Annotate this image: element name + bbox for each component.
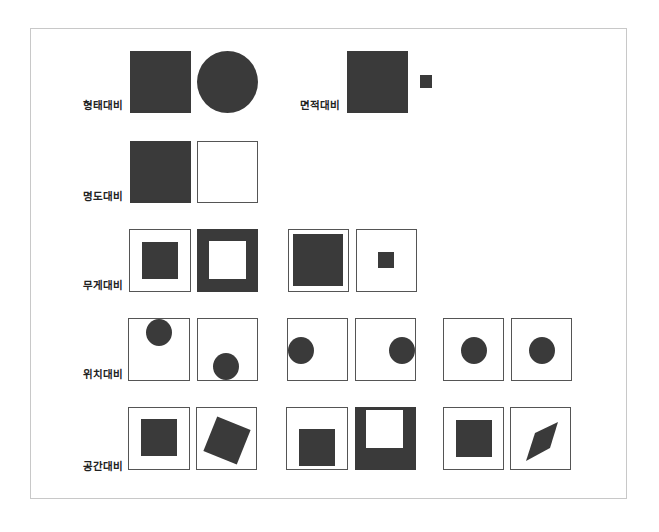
- position-box-5: [443, 318, 504, 381]
- weight-box-2: [197, 229, 258, 292]
- label-shape-contrast: 형태대비: [83, 99, 123, 111]
- label-area-contrast: 면적대비: [300, 99, 340, 111]
- circle-right: [389, 337, 415, 364]
- filled-square-shape: [130, 51, 191, 113]
- inner-dark-square: [142, 242, 178, 279]
- rotated-square: [203, 417, 250, 465]
- space-box-3: [286, 407, 348, 470]
- space-box-6: [510, 407, 571, 470]
- weight-box-4: [356, 229, 417, 292]
- circle-center: [461, 337, 487, 364]
- inner-large-dark-square: [293, 234, 343, 286]
- circle-top: [146, 319, 172, 346]
- position-box-6: [511, 318, 572, 381]
- inner-white-square: [209, 241, 246, 279]
- circle-center: [529, 337, 555, 364]
- position-box-1: [128, 318, 190, 381]
- dark-square-shape: [130, 141, 191, 203]
- inner-tiny-dark-square: [378, 252, 394, 268]
- lower-square: [299, 429, 335, 466]
- upper-white-square: [366, 410, 403, 448]
- circle-left: [288, 337, 314, 364]
- label-value-contrast: 명도대비: [83, 190, 123, 202]
- space-box-5: [443, 407, 504, 470]
- large-square-shape: [347, 51, 408, 113]
- space-box-2: [196, 407, 257, 470]
- label-weight-contrast: 무게대비: [83, 279, 123, 291]
- label-space-contrast: 공간대비: [83, 460, 123, 472]
- filled-circle-shape: [197, 51, 258, 113]
- position-box-4: [355, 318, 416, 381]
- centered-square: [456, 420, 492, 457]
- white-square-shape: [197, 141, 258, 203]
- circle-bottom: [213, 353, 239, 380]
- rhombus-icon: [511, 408, 572, 471]
- weight-box-1: [129, 229, 191, 292]
- position-box-2: [197, 318, 258, 381]
- space-box-1: [128, 407, 190, 470]
- label-position-contrast: 위치대비: [83, 368, 123, 380]
- space-box-4: [355, 407, 416, 470]
- centered-square: [141, 419, 177, 456]
- weight-box-3: [288, 229, 349, 292]
- position-box-3: [287, 318, 348, 381]
- small-square-shape: [420, 75, 432, 88]
